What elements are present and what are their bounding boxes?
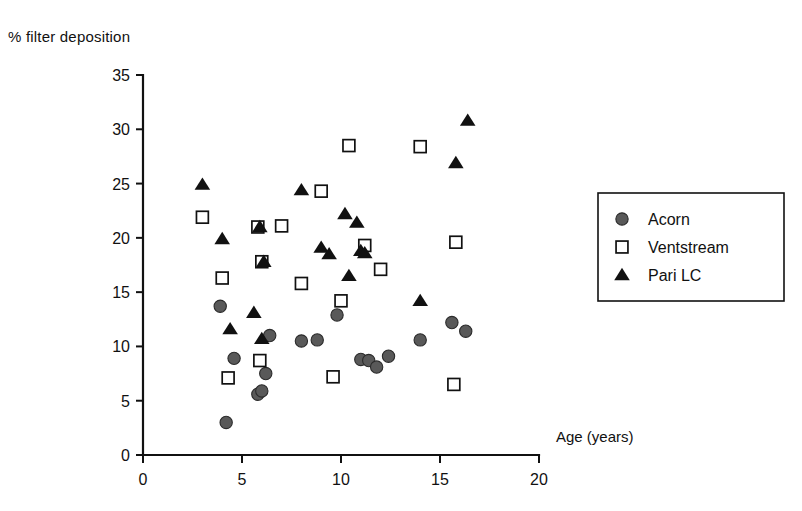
y-axis-tick-label: 15 (112, 284, 130, 301)
data-point-pari-lc (195, 177, 211, 189)
legend-marker-open-square (616, 241, 628, 253)
data-point-acorn (370, 361, 382, 373)
data-point-ventstream (327, 371, 339, 383)
data-point-acorn (228, 352, 240, 364)
y-axis-tick-label: 20 (112, 230, 130, 247)
data-point-pari-lc (448, 156, 464, 168)
data-point-ventstream (315, 185, 327, 197)
x-axis-tick-label: 15 (431, 471, 449, 488)
data-point-pari-lc (412, 294, 428, 306)
data-point-ventstream (216, 272, 228, 284)
legend-item-label: Pari LC (648, 267, 701, 284)
data-point-acorn (414, 334, 426, 346)
data-point-ventstream (375, 263, 387, 275)
data-point-acorn (311, 334, 323, 346)
data-point-ventstream (222, 372, 234, 384)
legend[interactable]: AcornVentstreamPari LC (598, 193, 784, 301)
x-axis-tick-label: 10 (332, 471, 350, 488)
data-point-ventstream (343, 140, 355, 152)
data-point-acorn (331, 309, 343, 321)
y-axis-tick-label: 10 (112, 338, 130, 355)
data-point-pari-lc (246, 306, 262, 318)
scatter-chart-figure: % filter deposition Age (years) 05101520… (0, 0, 802, 511)
data-point-acorn (460, 325, 472, 337)
data-point-group (195, 113, 476, 428)
data-point-pari-lc (294, 183, 310, 195)
data-point-acorn (382, 350, 394, 362)
data-point-acorn (256, 385, 268, 397)
y-axis-tick-label: 30 (112, 121, 130, 138)
plot-svg: 05101520253035 05101520 AcornVentstreamP… (0, 0, 802, 511)
data-point-acorn (295, 335, 307, 347)
x-tick-group: 05101520 (139, 455, 548, 488)
x-axis-tick-label: 20 (530, 471, 548, 488)
data-point-pari-lc (341, 269, 357, 281)
data-point-acorn (220, 416, 232, 428)
x-axis-tick-label: 0 (139, 471, 148, 488)
data-point-ventstream (450, 236, 462, 248)
y-axis-tick-label: 35 (112, 67, 130, 84)
legend-item-label: Ventstream (648, 239, 729, 256)
y-tick-group: 05101520253035 (112, 67, 143, 464)
data-point-ventstream (448, 378, 460, 390)
data-point-ventstream (196, 211, 208, 223)
legend-item-label: Acorn (648, 211, 690, 228)
data-point-pari-lc (214, 232, 230, 244)
data-point-ventstream (414, 141, 426, 153)
data-point-ventstream (295, 278, 307, 290)
y-axis-tick-label: 5 (121, 393, 130, 410)
data-point-pari-lc (460, 113, 476, 125)
data-point-pari-lc (337, 207, 353, 219)
y-axis-tick-label: 25 (112, 176, 130, 193)
data-point-acorn (214, 300, 226, 312)
data-point-ventstream (335, 295, 347, 307)
data-point-acorn (260, 367, 272, 379)
legend-marker-filled-circle (616, 213, 628, 225)
data-point-ventstream (276, 220, 288, 232)
x-axis-tick-label: 5 (238, 471, 247, 488)
y-axis-tick-label: 0 (121, 447, 130, 464)
axes-group (143, 75, 539, 455)
data-point-pari-lc (222, 322, 238, 334)
data-point-acorn (446, 316, 458, 328)
data-point-ventstream (254, 355, 266, 367)
